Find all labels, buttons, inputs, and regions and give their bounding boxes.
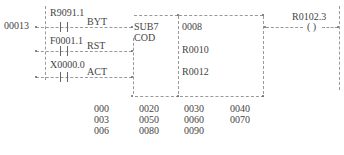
junction-dot bbox=[262, 95, 264, 97]
table-cell: 0050 bbox=[139, 115, 159, 125]
function-sub-label: COD bbox=[134, 33, 155, 43]
function-param: R0012 bbox=[182, 67, 209, 77]
coil-icon: ( ) bbox=[307, 22, 316, 32]
table-cell: 003 bbox=[94, 115, 109, 125]
contact-address: F0001.1 bbox=[50, 36, 83, 46]
table-cell: 0090 bbox=[184, 126, 204, 136]
table-cell: 006 bbox=[94, 126, 109, 136]
junction-dot bbox=[131, 26, 133, 28]
rung-wire bbox=[36, 27, 132, 28]
table-cell: 0060 bbox=[184, 115, 204, 125]
input-label: BYT bbox=[87, 17, 107, 27]
left-power-rail bbox=[45, 6, 46, 80]
rung-number: 00013 bbox=[4, 21, 29, 31]
junction-dot bbox=[35, 50, 37, 52]
block-top-border bbox=[134, 15, 178, 16]
function-name: SUB7 bbox=[134, 22, 158, 32]
table-top-border bbox=[180, 96, 264, 97]
table-top-border bbox=[135, 96, 179, 97]
function-param: 0008 bbox=[182, 22, 202, 32]
contact-address: R9091.1 bbox=[50, 8, 84, 18]
contact-no-icon bbox=[60, 46, 68, 56]
contact-no-icon bbox=[60, 72, 68, 82]
junction-dot bbox=[35, 26, 37, 28]
table-cell: 0020 bbox=[139, 104, 159, 114]
function-param: R0010 bbox=[182, 45, 209, 55]
table-cell: 0030 bbox=[184, 104, 204, 114]
input-label: RST bbox=[87, 41, 105, 51]
table-cell: 000 bbox=[94, 104, 109, 114]
input-label: ACT bbox=[87, 67, 107, 77]
rung-wire bbox=[266, 27, 303, 28]
contact-address: X0000.0 bbox=[50, 60, 85, 70]
junction-dot bbox=[131, 95, 133, 97]
junction-dot bbox=[177, 95, 179, 97]
rung-wire bbox=[322, 27, 338, 28]
rung-wire bbox=[36, 51, 132, 52]
table-cell: 0080 bbox=[139, 126, 159, 136]
block-divider bbox=[178, 16, 179, 94]
contact-no-icon bbox=[60, 22, 68, 32]
rung-wire bbox=[36, 77, 132, 78]
block-top-border bbox=[179, 15, 263, 16]
junction-dot bbox=[337, 26, 339, 28]
table-cell: 0040 bbox=[230, 104, 250, 114]
table-cell: 0070 bbox=[230, 115, 250, 125]
junction-dot bbox=[35, 76, 37, 78]
block-left-border bbox=[133, 38, 134, 94]
right-power-rail bbox=[339, 6, 340, 90]
